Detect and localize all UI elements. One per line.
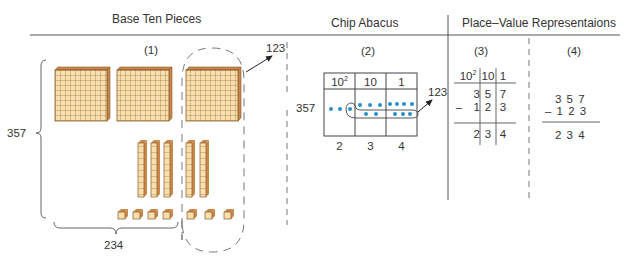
abacus-col-hundreds: 102 xyxy=(324,75,355,88)
pv-header-ones: 1 xyxy=(496,70,510,82)
pv-header-tens: 10 xyxy=(480,70,496,82)
abacus-col-tens: 10 xyxy=(355,76,386,88)
abacus-result-tens: 3 xyxy=(355,140,386,152)
abacus-col-ones: 1 xyxy=(386,76,417,88)
pv-r2-ones: 3 xyxy=(496,101,510,113)
pv-header-hundreds: 102 xyxy=(456,69,480,82)
pv-r2-tens: 2 xyxy=(480,101,496,113)
remaining-label: 234 xyxy=(104,239,123,251)
total-label: 357 xyxy=(7,127,26,139)
panel-label-3: (3) xyxy=(474,45,488,57)
std-row2: – 1 2 3 xyxy=(545,105,586,117)
pv-res-hundreds: 2 xyxy=(462,128,480,140)
panel-label-4: (4) xyxy=(567,45,581,57)
pv-r1-tens: 5 xyxy=(480,88,496,100)
abacus-result-ones: 4 xyxy=(386,140,417,152)
panel-label-1: (1) xyxy=(144,44,158,56)
header-place-value: Place–Value Representaions xyxy=(462,16,616,30)
pv-r1-ones: 7 xyxy=(496,88,510,100)
unit-blocks xyxy=(118,209,234,219)
header-chip-abacus: Chip Abacus xyxy=(331,16,398,30)
std-row1: 3 5 7 xyxy=(555,93,585,105)
abacus-chips xyxy=(329,102,414,116)
abacus-start-label: 357 xyxy=(296,102,315,114)
pv-r2-hundreds: 1 xyxy=(462,101,480,113)
pv-res-ones: 4 xyxy=(496,128,510,140)
header-base-ten: Base Ten Pieces xyxy=(112,12,201,26)
removed-label: 123 xyxy=(266,42,285,54)
pv-r1-hundreds: 3 xyxy=(462,88,480,100)
std-result: 2 3 4 xyxy=(555,129,585,141)
pv-res-tens: 3 xyxy=(480,128,496,140)
abacus-removed-label: 123 xyxy=(428,86,447,98)
diagram-canvas xyxy=(0,0,624,264)
panel-label-2: (2) xyxy=(361,45,375,57)
long-blocks xyxy=(138,140,209,197)
abacus-result-hundreds: 2 xyxy=(324,140,355,152)
flat-blocks xyxy=(55,67,241,121)
